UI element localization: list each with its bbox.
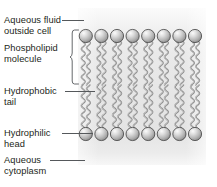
- leader-line-aqueous-cytoplasm: [50, 160, 85, 161]
- leader-line-hydrophilic-head: [62, 133, 93, 134]
- label-text-aqueous-cytoplasm: Aqueous cytoplasm: [4, 155, 46, 178]
- phospholipid-bilayer-diagram: Aqueous fluid outside cell Phospholipid …: [0, 0, 217, 187]
- label-text-hydrophobic-tail: Hydrophobic tail: [4, 86, 57, 109]
- label-text-phospholipid-molecule: Phospholipid molecule: [4, 43, 58, 66]
- label-text-hydrophilic-head: Hydrophilic head: [4, 128, 51, 151]
- phospholipid-molecule-bracket: [69, 27, 81, 87]
- membrane-background-block: [78, 8, 206, 165]
- leader-line-hydrophobic-tail: [65, 91, 95, 92]
- leader-line-aqueous-fluid-outside-cell: [62, 20, 84, 21]
- label-text-aqueous-fluid-outside-cell: Aqueous fluid outside cell: [4, 15, 61, 38]
